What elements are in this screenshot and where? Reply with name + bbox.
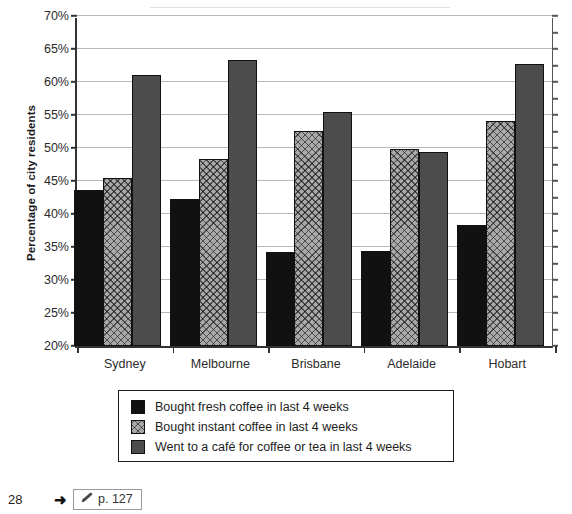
y-axis-tick-label: 45%	[44, 174, 69, 188]
bar	[457, 225, 486, 346]
pencil-icon	[80, 492, 93, 505]
chart-legend: Bought fresh coffee in last 4 weeks Boug…	[118, 390, 454, 462]
x-axis-tick-mark	[555, 346, 557, 353]
x-axis-tick-mark	[77, 346, 79, 353]
bar	[199, 159, 228, 346]
page-footer: 28 ➜ p. 127	[0, 484, 572, 514]
x-axis-tick-mark	[173, 346, 175, 353]
y-axis-tick-label: 20%	[44, 339, 69, 353]
bar	[294, 131, 323, 346]
x-axis-tick-mark	[364, 346, 366, 353]
bar-group	[268, 18, 364, 346]
title-underline	[150, 7, 450, 8]
bar-chart-figure: Percentage of city residents 70%65%60%55…	[0, 9, 572, 381]
y-axis-tick-mark	[71, 15, 77, 17]
y-axis-title: Percentage of city residents	[25, 78, 37, 288]
bar	[515, 64, 544, 346]
x-axis-label-melbourne: Melbourne	[191, 357, 250, 371]
legend-label-fresh-coffee: Bought fresh coffee in last 4 weeks	[155, 400, 349, 414]
bar-group	[77, 18, 173, 346]
bar	[390, 149, 419, 346]
arrow-right-icon: ➜	[54, 492, 67, 507]
x-axis-label-hobart: Hobart	[488, 357, 526, 371]
bar	[486, 121, 515, 346]
y-axis-tick-label: 60%	[44, 75, 69, 89]
cross-reference-text: p. 127	[98, 492, 133, 506]
legend-swatch-cafe	[131, 440, 145, 454]
legend-item: Bought instant coffee in last 4 weeks	[131, 417, 453, 437]
bar-group	[173, 18, 269, 346]
y-axis-tick-label: 50%	[44, 141, 69, 155]
legend-item: Bought fresh coffee in last 4 weeks	[131, 397, 453, 417]
bar	[228, 60, 257, 346]
legend-label-instant-coffee: Bought instant coffee in last 4 weeks	[155, 420, 358, 434]
gridline	[77, 15, 552, 16]
y-axis-tick-mark-right	[552, 15, 558, 17]
bar-group	[459, 18, 555, 346]
bar	[419, 152, 448, 346]
legend-label-cafe: Went to a café for coffee or tea in last…	[155, 440, 412, 454]
bar	[103, 178, 132, 346]
bar-group	[364, 18, 460, 346]
y-axis-tick-label: 70%	[44, 9, 69, 23]
bar	[74, 190, 103, 346]
y-axis-tick-label: 55%	[44, 108, 69, 122]
y-axis-tick-label: 65%	[44, 42, 69, 56]
x-axis-label-sydney: Sydney	[104, 357, 146, 371]
plot-area: 70%65%60%55%50%45%40%35%30%25%20% Sydney…	[75, 18, 553, 348]
y-axis-tick-label: 30%	[44, 273, 69, 287]
y-axis-tick-label: 40%	[44, 207, 69, 221]
bar	[170, 199, 199, 346]
x-axis-tick-mark	[268, 346, 270, 353]
bar	[323, 112, 352, 346]
bar	[361, 251, 390, 346]
bar	[132, 75, 161, 346]
legend-swatch-instant-coffee	[131, 420, 145, 434]
page-number: 28	[8, 492, 42, 507]
x-axis-tick-mark	[459, 346, 461, 353]
x-axis-label-adelaide: Adelaide	[387, 357, 436, 371]
y-axis-tick-label: 25%	[44, 306, 69, 320]
x-axis-label-brisbane: Brisbane	[291, 357, 340, 371]
y-axis-tick-label: 35%	[44, 240, 69, 254]
cross-reference-box[interactable]: p. 127	[73, 489, 142, 510]
legend-item: Went to a café for coffee or tea in last…	[131, 437, 453, 457]
legend-swatch-fresh-coffee	[131, 400, 145, 414]
bar	[266, 252, 295, 346]
cropped-title-strip	[0, 0, 572, 9]
bar-series-container	[77, 18, 552, 346]
